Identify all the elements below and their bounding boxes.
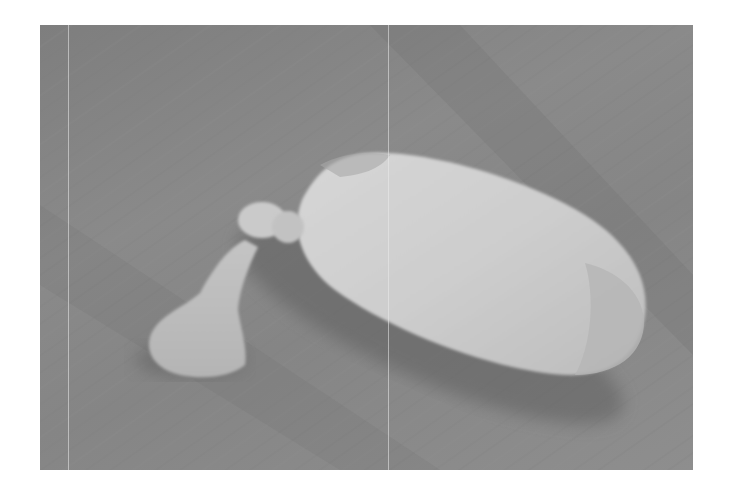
scan-artifact-line xyxy=(68,25,69,470)
photo xyxy=(40,25,693,470)
scan-artifact-line xyxy=(388,25,389,470)
photo-scene xyxy=(40,25,693,470)
